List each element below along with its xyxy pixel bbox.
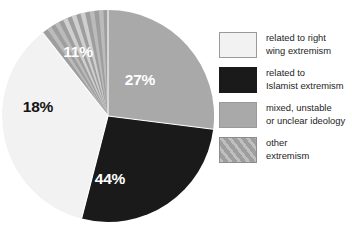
legend-item-islamist: related to Islamist extremism: [219, 66, 352, 93]
legend-label-islamist: related to Islamist extremism: [266, 66, 344, 92]
legend-label-right-wing: related to right wing extremism: [266, 31, 331, 57]
swatch-islamist: [219, 67, 257, 93]
legend-label-other: other extremism: [266, 136, 309, 162]
legend-item-right-wing: related to right wing extremism: [219, 31, 352, 58]
pie-slice-mixed: [108, 10, 214, 129]
pie-chart: 27% 44% 18% 11%: [0, 6, 220, 230]
swatch-other: [219, 137, 257, 163]
pie-label-other: 11%: [63, 43, 93, 60]
pie-label-right-wing: 18%: [23, 98, 54, 115]
chart-legend: related to right wing extremism related …: [219, 31, 352, 163]
legend-label-mixed: mixed, unstable or unclear ideology: [266, 101, 345, 127]
pie-label-mixed: 27%: [125, 71, 156, 88]
pie-chart-figure: 27% 44% 18% 11% related to right wing ex…: [0, 0, 352, 233]
swatch-right-wing: [219, 32, 257, 58]
pie-chart-svg: 27% 44% 18% 11%: [0, 6, 220, 230]
pie-label-islamist: 44%: [95, 170, 126, 187]
legend-item-mixed: mixed, unstable or unclear ideology: [219, 101, 352, 128]
legend-item-other: other extremism: [219, 136, 352, 163]
swatch-mixed: [219, 102, 257, 128]
